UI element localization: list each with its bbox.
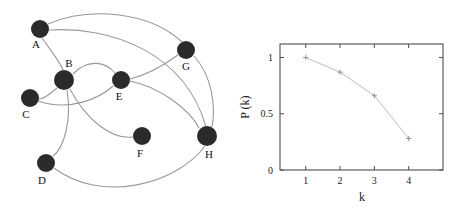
graph-node-a[interactable]: [31, 20, 49, 38]
graph-edge-b-f: [70, 89, 133, 137]
graph-edge-b-d: [53, 90, 69, 156]
graph-node-label-d: D: [38, 174, 46, 186]
graph-edge-c-e: [38, 86, 113, 105]
graph-edge-g-h: [194, 56, 213, 127]
x-axis-ticks-group: 1234: [303, 44, 411, 186]
graph-node-label-f: F: [137, 147, 143, 159]
x-tick-label-1: 1: [303, 175, 308, 186]
y-tick-label-1: 1: [268, 52, 273, 63]
x-tick-label-4: 4: [406, 175, 411, 186]
degree-distribution-svg: 1234 00.51 k P (k): [232, 0, 463, 210]
graph-node-label-c: C: [22, 108, 29, 120]
network-graph-panel: ABCDEFGH: [0, 0, 232, 210]
x-axis-title: k: [359, 190, 365, 204]
graph-node-label-a: A: [32, 38, 40, 50]
graph-edge-b-e: [73, 63, 115, 74]
y-axis-ticks-group: 00.51: [261, 52, 444, 176]
graph-node-d[interactable]: [37, 154, 55, 172]
plot-frame: [280, 44, 443, 170]
series-markers-group: [303, 55, 411, 141]
y-axis-title: P (k): [238, 95, 252, 118]
graph-edge-g-e: [130, 55, 178, 79]
x-tick-label-3: 3: [372, 175, 377, 186]
graph-node-e[interactable]: [112, 71, 130, 89]
degree-distribution-panel: 1234 00.51 k P (k): [232, 0, 463, 210]
graph-node-c[interactable]: [21, 89, 39, 107]
figure-root: ABCDEFGH 1234 00.51 k P (k): [0, 0, 463, 210]
y-tick-label-0: 0: [268, 165, 273, 176]
graph-edge-e-h: [130, 81, 199, 128]
graph-node-g[interactable]: [177, 41, 195, 59]
network-graph-svg: ABCDEFGH: [0, 0, 232, 210]
y-tick-label-0.5: 0.5: [261, 108, 274, 119]
graph-edge-d-h: [54, 146, 205, 187]
graph-node-label-b: B: [65, 57, 72, 69]
graph-node-label-h: H: [205, 148, 213, 160]
graph-node-f[interactable]: [133, 127, 151, 145]
graph-edge-a-b: [42, 38, 63, 70]
graph-node-label-e: E: [116, 90, 123, 102]
graph-node-b[interactable]: [54, 70, 74, 90]
series-line-pk: [306, 58, 409, 139]
graph-edges-group: [38, 14, 213, 187]
graph-node-label-g: G: [182, 60, 190, 72]
graph-node-h[interactable]: [197, 126, 217, 146]
x-tick-label-2: 2: [338, 175, 343, 186]
graph-edge-b-c: [39, 88, 57, 99]
